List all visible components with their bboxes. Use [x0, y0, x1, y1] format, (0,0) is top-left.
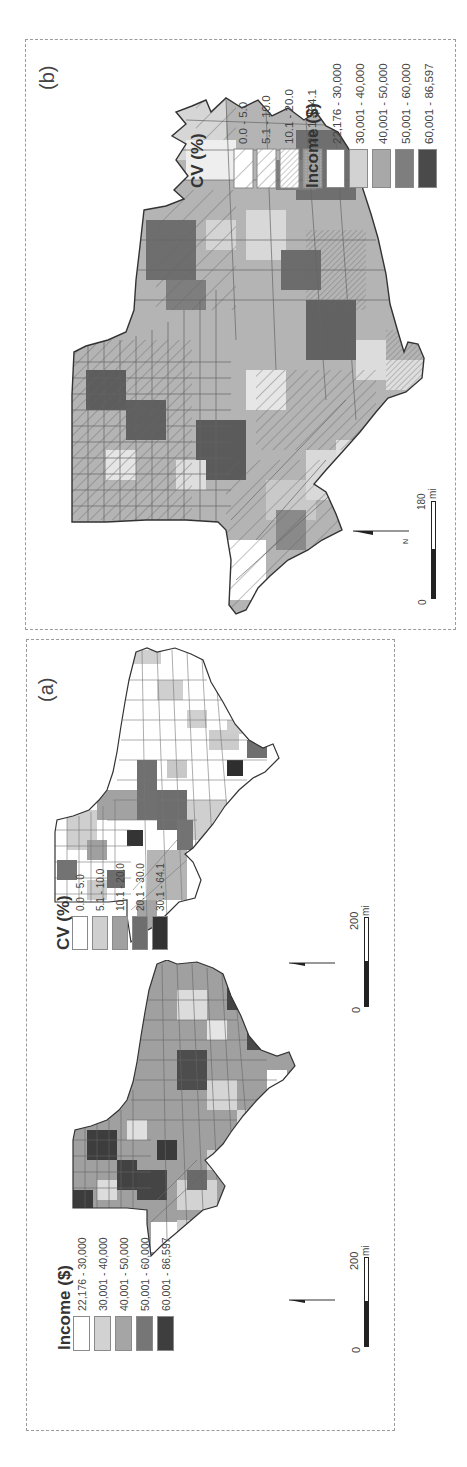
income-swatch-b-5 [418, 149, 437, 188]
legend-cv-item-a-4: 20.1 - 30.0 [135, 863, 146, 911]
legend-income-item-a-2: 30,001 - 40,000 [97, 1237, 109, 1311]
north-arrow-icon [287, 1295, 337, 1309]
legend-cv-title-b: CV (%) [188, 133, 208, 188]
legend-cv-item-a-2: 5.1 - 10.0 [95, 869, 106, 911]
legend-cv-item-b-1: 0.0 - 5.0 [237, 102, 249, 144]
cv-swatch-a-2 [92, 916, 108, 950]
income-swatch-b-4 [395, 149, 414, 188]
legend-cv-item-a-1: 0.0 - 5.0 [75, 874, 86, 911]
income-swatch-b-1 [326, 149, 345, 188]
income-swatch-a-1 [73, 1316, 90, 1351]
legend-income-item-b-3: 40,001 - 50,000 [377, 63, 389, 144]
legend-income-item-a-4: 50,001 - 60,000 [139, 1237, 151, 1311]
scale-end-a-cv: 200 [348, 912, 360, 930]
scale-end-b: 180 [416, 493, 427, 510]
scale-start-a-income: 0 [350, 1347, 362, 1353]
scale-unit-b: mi [427, 488, 438, 499]
legend-income-item-b-4: 50,001 - 60,000 [400, 63, 412, 144]
cv-swatch-a-1 [72, 916, 88, 950]
cv-swatch-a-3 [112, 916, 128, 950]
income-swatch-a-3 [115, 1316, 132, 1351]
legend-income-title-b: Income ($) [303, 103, 323, 188]
cv-swatch-a-5 [152, 916, 168, 950]
legend-income-title-a: Income ($) [55, 1265, 75, 1350]
legend-income-item-b-1: 22,176 - 30,000 [331, 63, 343, 144]
legend-income-item-a-1: 22,176 - 30,000 [76, 1237, 88, 1311]
legend-income-item-a-3: 40,001 - 50,000 [118, 1237, 130, 1311]
income-swatch-a-2 [94, 1316, 111, 1351]
legend-cv-item-b-2: 5.1 - 10.0 [260, 95, 272, 144]
scale-unit-a-cv: mi [360, 905, 371, 916]
north-label-b: N [402, 539, 409, 544]
legend-income-item-b-5: 60,001 - 86,597 [423, 63, 435, 144]
income-swatch-b-3 [372, 149, 391, 188]
income-swatch-a-5 [157, 1316, 174, 1351]
scale-start-b: 0 [417, 599, 428, 605]
cv-swatch-a-4 [132, 916, 148, 950]
scale-unit-a-income: mi [360, 1245, 371, 1256]
legend-income-item-a-5: 60,001 - 86,597 [160, 1237, 172, 1311]
income-swatch-a-4 [136, 1316, 153, 1351]
legend-cv-title-a: CV (%) [54, 895, 74, 950]
legend-cv-item-a-5: 30.1 - 64.1 [155, 863, 166, 911]
legend-cv-item-b-3: 10.1 - 20.0 [283, 89, 295, 144]
figure: (b) [0, 0, 467, 1467]
legend-cv-item-a-3: 10.1 - 20.0 [115, 863, 126, 911]
scale-end-a-income: 200 [348, 1252, 360, 1270]
legend-income-item-b-2: 30,001 - 40,000 [354, 63, 366, 144]
panel-b: (b) [25, 39, 456, 630]
panel-a: (a) [26, 639, 395, 1431]
income-swatch-b-2 [349, 149, 368, 188]
